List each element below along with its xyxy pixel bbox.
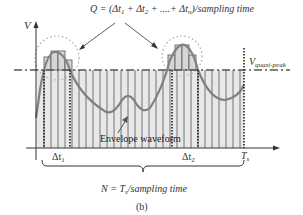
q-formula-mid1: + Δt bbox=[124, 3, 144, 14]
annotation-arrow-1 bbox=[81, 23, 115, 48]
delta-t1-sub: 1 bbox=[61, 156, 65, 164]
q-formula-suffix: )/sampling time bbox=[192, 3, 255, 14]
y-axis-arrow-icon bbox=[34, 21, 39, 28]
figure-caption: (b) bbox=[136, 202, 148, 212]
sampling-brace bbox=[42, 160, 244, 172]
delta-t2-main: Δt bbox=[182, 151, 191, 162]
delta-t2-sub: 2 bbox=[191, 156, 195, 164]
n-formula-suffix: /sampling time bbox=[128, 183, 187, 194]
quasi-peak-diagram: Q = (Δt1 + Δt2 + ....+ Δtn)/sampling tim… bbox=[0, 0, 303, 215]
y-axis-label: V bbox=[24, 20, 31, 31]
arrow-head-1-icon bbox=[79, 44, 85, 50]
q-formula-prefix: Q = (Δt bbox=[90, 3, 121, 14]
n-formula-prefix: N = T bbox=[101, 183, 125, 194]
envelope-label: Envelope waveform bbox=[100, 134, 181, 144]
x-axis-arrow-icon bbox=[273, 146, 280, 151]
annotation-arrow-2 bbox=[125, 23, 155, 46]
delta-t2-label: Δt2 bbox=[182, 152, 195, 164]
arrow-head-2-icon bbox=[151, 42, 158, 49]
q-formula-mid2: + ....+ Δt bbox=[148, 3, 188, 14]
ts-sub: s bbox=[247, 155, 250, 163]
ts-label: Ts bbox=[241, 151, 249, 163]
n-formula: N = Ts/sampling time bbox=[101, 184, 187, 196]
delta-t1-main: Δt bbox=[52, 151, 61, 162]
delta-t1-label: Δt1 bbox=[52, 152, 65, 164]
q-formula: Q = (Δt1 + Δt2 + ....+ Δtn)/sampling tim… bbox=[90, 4, 254, 16]
quasi-peak-label: Vquasi-peak bbox=[249, 57, 286, 69]
quasi-peak-label-sub: quasi-peak bbox=[255, 61, 286, 69]
